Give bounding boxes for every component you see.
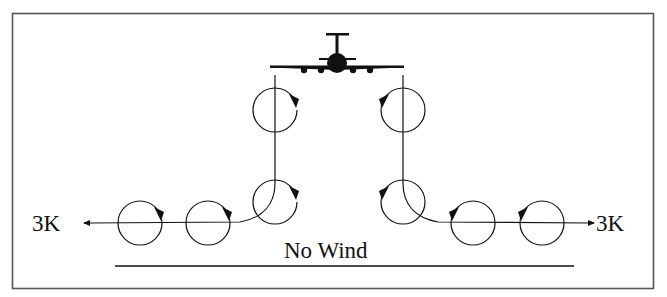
clockwise-arrow-icon xyxy=(289,186,299,200)
left-vortex-trail xyxy=(88,75,275,223)
left-distance-label: 3K xyxy=(32,211,60,237)
counterclockwise-arrow-icon xyxy=(379,186,389,200)
right-vortex-trail xyxy=(403,75,590,223)
airplane-front-view-icon xyxy=(270,33,404,73)
right-distance-label: 3K xyxy=(596,211,624,237)
clockwise-arrow-icon xyxy=(289,94,299,108)
clockwise-arrow-icon xyxy=(222,207,232,221)
counterclockwise-arrow-icon xyxy=(518,207,528,221)
clockwise-arrow-icon xyxy=(154,207,164,221)
counterclockwise-arrow-icon xyxy=(449,207,459,221)
wind-condition-label: No Wind xyxy=(284,238,368,264)
right-vortex-lateral-inner xyxy=(451,201,495,245)
left-vortex-lateral-inner xyxy=(186,201,230,245)
rotation-arrowheads xyxy=(154,94,528,221)
counterclockwise-arrow-icon xyxy=(379,94,389,108)
